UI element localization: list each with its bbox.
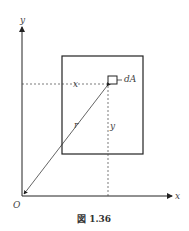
y-distance-label: y: [109, 121, 116, 131]
y-axis-label: y: [19, 15, 26, 25]
figure-caption: 図 1.36: [77, 214, 111, 224]
x-axis-label: x: [175, 191, 180, 201]
area-moment-diagram: y x O dA x y r 図 1.36: [0, 0, 189, 231]
area-rectangle: [62, 56, 143, 154]
area-element: [108, 76, 117, 84]
radius-arrow: [24, 86, 107, 194]
radius-label: r: [74, 120, 79, 130]
element-label: dA: [124, 74, 137, 84]
x-distance-label: x: [73, 79, 78, 89]
figure: y x O dA x y r 図 1.36: [0, 0, 189, 231]
origin-label: O: [13, 200, 21, 210]
